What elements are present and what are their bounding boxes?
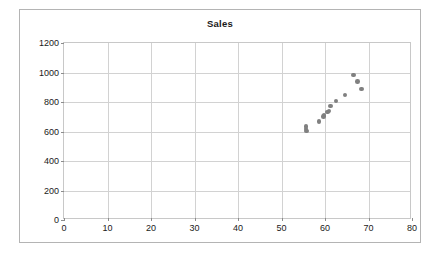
x-tick-mark <box>412 218 413 221</box>
scatter-point <box>317 119 322 124</box>
y-tick-mark <box>61 161 64 162</box>
y-tick-label: 1000 <box>39 68 59 78</box>
gridline-horizontal <box>64 161 410 162</box>
scatter-point <box>343 93 348 98</box>
x-tick-mark <box>151 218 152 221</box>
gridline-vertical <box>195 43 196 218</box>
y-tick-mark <box>61 132 64 133</box>
x-tick-label: 50 <box>276 223 286 233</box>
y-tick-mark <box>61 102 64 103</box>
y-tick-label: 200 <box>44 186 59 196</box>
gridline-vertical <box>325 43 326 218</box>
x-tick-mark <box>108 218 109 221</box>
scatter-point <box>327 109 332 114</box>
x-tick-mark <box>282 218 283 221</box>
gridline-horizontal <box>64 191 410 192</box>
scatter-point <box>328 104 333 109</box>
x-tick-mark <box>64 218 65 221</box>
chart-title: Sales <box>20 18 420 29</box>
x-tick-label: 0 <box>61 223 66 233</box>
x-tick-mark <box>195 218 196 221</box>
scatter-point <box>359 87 364 92</box>
y-tick-label: 0 <box>54 215 59 225</box>
scatter-point <box>351 73 356 78</box>
chart-frame: Sales 020040060080010001200 010203040506… <box>19 9 421 243</box>
plot-area: 020040060080010001200 01020304050607080 <box>63 42 411 219</box>
gridline-horizontal <box>64 132 410 133</box>
x-tick-label: 60 <box>320 223 330 233</box>
gridline-vertical <box>238 43 239 218</box>
gridline-vertical <box>151 43 152 218</box>
gridline-vertical <box>282 43 283 218</box>
x-tick-label: 10 <box>102 223 112 233</box>
x-tick-mark <box>238 218 239 221</box>
gridline-horizontal <box>64 73 410 74</box>
x-tick-label: 30 <box>189 223 199 233</box>
y-tick-label: 600 <box>44 127 59 137</box>
x-tick-mark <box>369 218 370 221</box>
x-tick-label: 80 <box>407 223 417 233</box>
x-tick-mark <box>325 218 326 221</box>
y-tick-mark <box>61 43 64 44</box>
y-tick-label: 400 <box>44 156 59 166</box>
y-tick-mark <box>61 73 64 74</box>
gridline-vertical <box>108 43 109 218</box>
gridline-horizontal <box>64 102 410 103</box>
x-tick-label: 70 <box>363 223 373 233</box>
scatter-point <box>355 79 360 84</box>
y-tick-label: 1200 <box>39 38 59 48</box>
x-tick-label: 20 <box>146 223 156 233</box>
gridline-vertical <box>369 43 370 218</box>
y-tick-mark <box>61 191 64 192</box>
y-tick-label: 800 <box>44 97 59 107</box>
scatter-point <box>304 129 309 134</box>
x-tick-label: 40 <box>233 223 243 233</box>
